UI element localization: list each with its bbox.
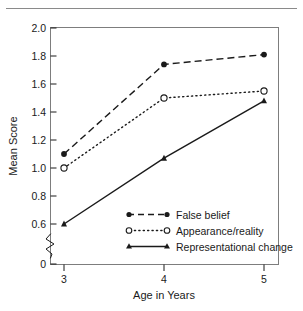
data-point: [261, 88, 267, 94]
legend-marker-filled-circle-icon: [126, 212, 131, 217]
series-representational-change: [61, 97, 267, 226]
data-point: [161, 95, 167, 101]
x-tick-label: 5: [261, 273, 267, 285]
line-chart: 2.0 1.8 1.6 1.4 1.2 1.0 0.8 0.6 0 3 4 5 …: [0, 0, 303, 311]
legend-item-appearance-reality: Appearance/reality: [126, 225, 264, 237]
y-tick-label: 1.0: [31, 162, 46, 174]
y-tick-label: 1.6: [31, 78, 46, 90]
data-point: [61, 221, 67, 227]
y-tick-label: 1.4: [31, 106, 46, 118]
y-tick-label: 0.8: [31, 190, 46, 202]
y-axis-label: Mean Score: [7, 116, 19, 175]
y-tick-label: 0.6: [31, 218, 46, 230]
legend-marker-open-circle-icon: [164, 228, 170, 234]
y-tick-label: 1.8: [31, 50, 46, 62]
data-point: [61, 151, 67, 157]
legend-label: Appearance/reality: [176, 225, 264, 237]
legend-marker-filled-circle-icon: [164, 212, 169, 217]
legend-marker-open-circle-icon: [126, 228, 132, 234]
legend-item-false-belief: False belief: [126, 209, 229, 221]
y-tick-label: 0: [40, 258, 46, 270]
legend-item-representational-change: Representational change: [126, 241, 293, 253]
y-axis-tick-labels: 2.0 1.8 1.6 1.4 1.2 1.0 0.8 0.6 0: [31, 22, 46, 270]
figure-container: 2.0 1.8 1.6 1.4 1.2 1.0 0.8 0.6 0 3 4 5 …: [0, 0, 303, 311]
x-axis-tick-labels: 3 4 5: [61, 273, 267, 285]
x-axis-ticks: [64, 265, 264, 272]
y-tick-label: 1.2: [31, 134, 46, 146]
y-axis-ticks: [51, 28, 57, 264]
data-point: [161, 62, 167, 68]
legend-label: False belief: [176, 209, 230, 221]
y-tick-label: 2.0: [31, 22, 46, 34]
x-tick-label: 4: [161, 273, 167, 285]
data-point: [261, 97, 267, 103]
legend-label: Representational change: [176, 241, 293, 253]
x-axis-label: Age in Years: [133, 289, 195, 301]
x-tick-label: 3: [61, 273, 67, 285]
data-point: [61, 165, 67, 171]
chart-legend: False belief Appearance/reality Represen…: [126, 209, 293, 253]
data-point: [261, 52, 267, 58]
series-false-belief: [61, 52, 267, 157]
